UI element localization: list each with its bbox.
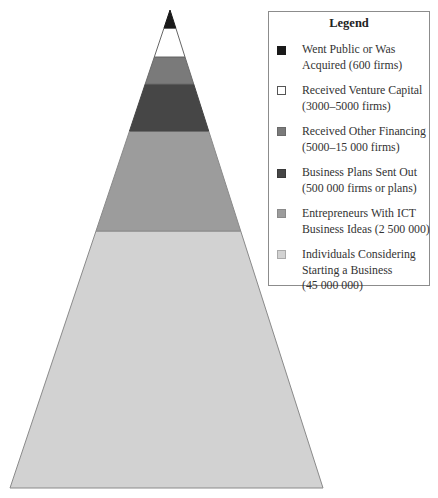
legend-label-line: Received Venture Capital	[302, 83, 427, 99]
swatch-white	[277, 86, 286, 95]
layer-business-plans	[130, 84, 209, 131]
legend: Legend Went Public or Was Acquired (600 …	[268, 11, 430, 286]
layer-went-public	[164, 10, 176, 28]
legend-label-line: (5000–15 000 firms)	[302, 140, 427, 156]
swatch-medium-gray	[277, 127, 286, 136]
legend-label-line: Business Plans Sent Out	[302, 165, 427, 181]
legend-label-line: (500 000 firms or plans)	[302, 181, 427, 197]
swatch-light-gray	[277, 250, 286, 259]
swatch-gray	[277, 209, 286, 218]
layer-venture-capital	[154, 28, 185, 57]
swatch-dark-gray	[277, 169, 286, 178]
layer-ict-entrepreneurs	[96, 131, 241, 231]
legend-label-line: Starting a Business	[302, 263, 427, 279]
legend-label-line: Business Ideas (2 500 000)	[302, 222, 427, 238]
legend-label-line: Individuals Considering	[302, 247, 427, 263]
legend-title: Legend	[269, 16, 429, 31]
legend-label-line: (3000–5000 firms)	[302, 99, 427, 115]
swatch-black	[277, 46, 286, 55]
legend-label-line: Went Public or Was	[302, 42, 427, 58]
legend-label-line: Entrepreneurs With ICT	[302, 206, 427, 222]
legend-label-line: (45 000 000)	[302, 278, 427, 294]
legend-label-line: Acquired (600 firms)	[302, 58, 427, 74]
legend-label-line: Received Other Financing	[302, 124, 427, 140]
layer-other-financing	[145, 57, 194, 84]
